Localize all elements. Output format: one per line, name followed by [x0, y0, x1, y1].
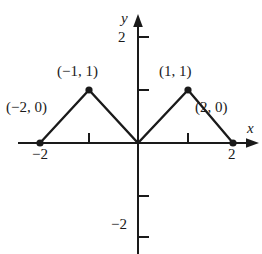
- point-label-vertex-left: (−1, 1): [57, 64, 98, 79]
- plot-canvas: [0, 0, 262, 254]
- function-curve: [40, 90, 233, 143]
- y-tick-label-neg2: −2: [111, 217, 127, 232]
- point-label-end-left: (−2, 0): [6, 100, 47, 115]
- x-axis-label: x: [247, 121, 254, 136]
- point-label-vertex-right: (1, 1): [159, 64, 192, 79]
- x-axis-arrowhead: [246, 138, 259, 148]
- y-axis-label: y: [121, 11, 128, 26]
- y-tick-label-pos2: 2: [118, 30, 126, 45]
- x-tick-label-neg2: −2: [32, 147, 48, 162]
- y-axis-arrowhead: [133, 14, 143, 27]
- point-marker-vertex-right: [184, 86, 191, 93]
- x-tick-label-pos2: 2: [228, 147, 236, 162]
- point-label-end-right: (2, 0): [195, 100, 228, 115]
- point-marker-vertex-left: [85, 86, 92, 93]
